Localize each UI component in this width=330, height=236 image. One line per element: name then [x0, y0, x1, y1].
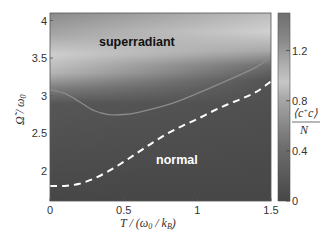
- colorbar: 00.40.81.2 ⟨c+c⟩ N: [278, 13, 320, 207]
- svg-text:4: 4: [41, 15, 47, 27]
- svg-text:0.5: 0.5: [116, 204, 131, 216]
- svg-text:1: 1: [194, 204, 200, 216]
- svg-text:0.8: 0.8: [292, 95, 307, 107]
- svg-text:0: 0: [292, 195, 298, 207]
- svg-text:N: N: [299, 123, 309, 137]
- svg-text:1.5: 1.5: [263, 204, 278, 216]
- colorbar-label: ⟨c+c⟩ N: [292, 106, 320, 137]
- y-axis-label: Ω̃ / ω0: [13, 95, 28, 125]
- svg-text:2: 2: [41, 165, 47, 177]
- svg-text:2.5: 2.5: [32, 127, 47, 139]
- svg-text:0: 0: [47, 204, 53, 216]
- svg-text:0.4: 0.4: [292, 145, 307, 157]
- phase-diagram-figure: superradiant normal 00.511.5 22.533.54 T…: [0, 0, 330, 236]
- svg-text:⟨c+c⟩: ⟨c+c⟩: [293, 106, 318, 120]
- superradiant-label: superradiant: [99, 35, 176, 49]
- svg-text:1.2: 1.2: [292, 45, 307, 57]
- svg-text:3: 3: [41, 90, 47, 102]
- normal-label: normal: [156, 153, 198, 167]
- x-axis-label: T / (ω0 / kB): [120, 216, 176, 231]
- svg-text:3.5: 3.5: [32, 52, 47, 64]
